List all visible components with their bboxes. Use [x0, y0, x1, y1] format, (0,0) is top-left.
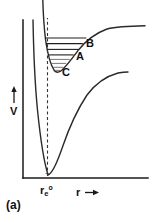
diagram-canvas	[0, 0, 150, 219]
label-curve-A: A	[76, 51, 84, 62]
y-axis-label: V	[10, 106, 17, 117]
potential-energy-diagram: B A C V r reo (a)	[0, 0, 150, 219]
v-axis-up-arrow-icon	[11, 86, 16, 103]
panel-label: (a)	[6, 199, 21, 211]
label-curve-C: C	[62, 67, 70, 78]
equilibrium-distance-superscript: o	[48, 184, 52, 191]
x-axis-label: r	[76, 187, 80, 198]
r-axis-right-arrow-icon	[85, 190, 99, 195]
label-curve-B: B	[86, 38, 94, 49]
equilibrium-distance-label: reo	[40, 184, 53, 198]
